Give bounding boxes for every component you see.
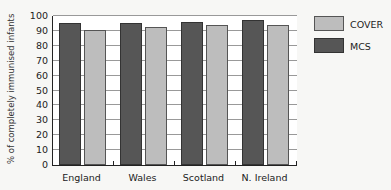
bar-cover-n-ireland: [267, 25, 289, 165]
x-tick-label: Scotland: [169, 172, 239, 183]
gridline: [53, 15, 297, 16]
y-tick-label: 60: [20, 71, 48, 81]
x-tick-label: Wales: [108, 172, 178, 183]
bar-mcs-n-ireland: [242, 20, 264, 165]
bar-cover-scotland: [206, 25, 228, 165]
y-tick-label: 80: [20, 41, 48, 51]
legend-label-cover: COVER: [350, 19, 383, 30]
legend-swatch-mcs: [314, 38, 344, 53]
plot-area: [52, 16, 297, 166]
legend-swatch-cover: [314, 16, 344, 31]
x-tick-mark: [296, 161, 297, 165]
y-tick-label: 70: [20, 56, 48, 66]
y-tick-label: 30: [20, 115, 48, 125]
x-tick-mark: [235, 161, 236, 165]
bar-mcs-scotland: [181, 22, 203, 165]
x-tick-mark: [113, 161, 114, 165]
x-tick-mark: [174, 161, 175, 165]
y-tick-label: 20: [20, 130, 48, 140]
y-tick-label: 50: [20, 86, 48, 96]
x-tick-label: England: [47, 172, 117, 183]
bar-mcs-wales: [120, 23, 142, 165]
y-tick-label: 40: [20, 100, 48, 110]
legend-label-mcs: MCS: [350, 41, 371, 52]
y-tick-label: 90: [20, 26, 48, 36]
y-tick-label: 0: [20, 160, 48, 170]
x-tick-label: N. Ireland: [230, 172, 300, 183]
y-tick-label: 100: [20, 11, 48, 21]
bar-mcs-england: [59, 23, 81, 165]
y-axis-label: % of completely immunised infants: [6, 14, 16, 164]
bar-cover-wales: [145, 27, 167, 165]
y-tick-label: 10: [20, 145, 48, 155]
bar-cover-england: [84, 30, 106, 165]
